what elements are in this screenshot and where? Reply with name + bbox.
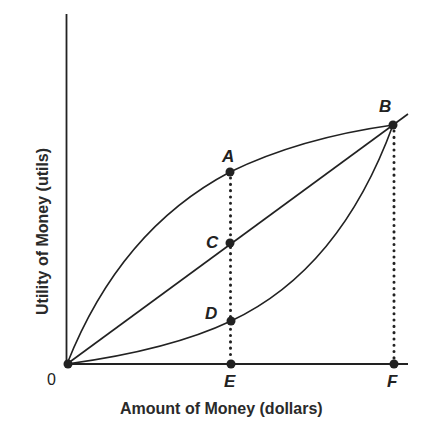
point-b xyxy=(389,121,398,130)
y-axis-title: Utility of Money (utils) xyxy=(34,148,51,315)
point-e xyxy=(227,360,236,369)
linear-utility-line xyxy=(67,114,408,364)
point-d xyxy=(227,317,236,326)
label-e: E xyxy=(224,372,236,391)
label-origin: 0 xyxy=(47,371,56,388)
point-origin xyxy=(64,360,73,369)
label-b: B xyxy=(379,97,391,116)
point-a xyxy=(226,168,235,177)
label-d: D xyxy=(205,304,217,323)
point-f xyxy=(390,360,399,369)
label-c: C xyxy=(206,233,219,252)
label-a: A xyxy=(221,147,234,166)
utility-diagram: A B C D E F 0 Amount of Money (dollars) … xyxy=(0,0,428,445)
point-c xyxy=(226,239,235,248)
x-axis-title: Amount of Money (dollars) xyxy=(120,400,323,417)
label-f: F xyxy=(387,372,398,391)
